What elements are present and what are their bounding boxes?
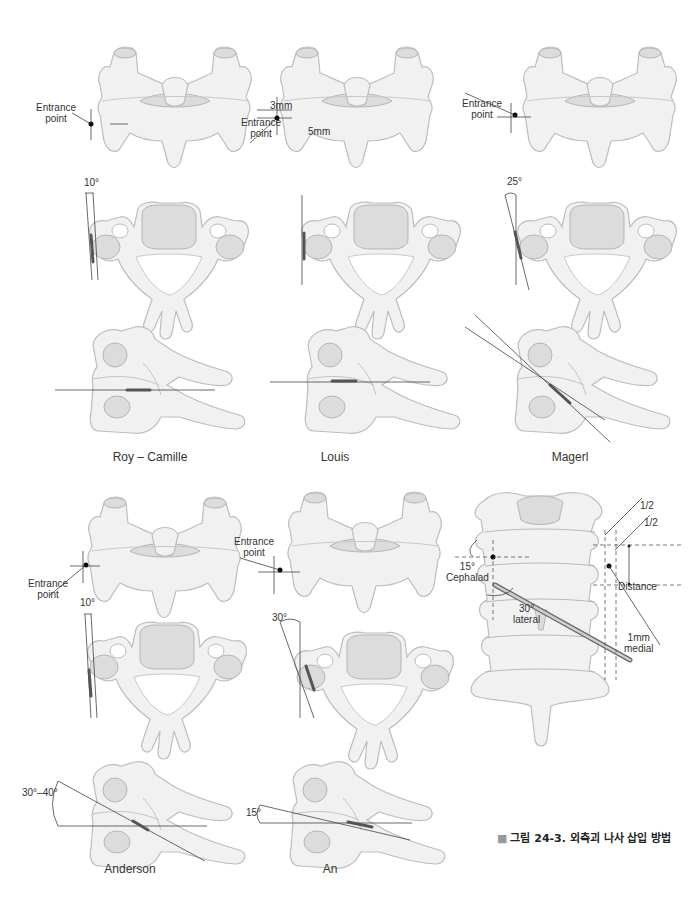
anderson-axial-angle: 10°	[80, 597, 95, 608]
cephalad-angle-label: 15° Cephalad	[446, 561, 489, 583]
medial-offset-label: 1mm medial	[624, 632, 653, 654]
an-lateral-trajectory	[260, 800, 430, 860]
anderson-lateral-angle: 30°–40°	[22, 787, 58, 798]
technique-name-an: An	[300, 862, 360, 876]
an-entrance-label: Entrance point	[234, 536, 274, 558]
an-screw-trajectory	[270, 610, 460, 770]
figure-caption: ■그림 24-3. 외측괴 나사 삽입 방법	[497, 829, 671, 845]
technique-name-louis: Louis	[280, 450, 390, 464]
half-top-label: 1/2	[640, 500, 654, 511]
caption-marker-icon: ■	[497, 832, 507, 845]
magerl-entrance-label: Entrance point	[462, 98, 502, 120]
technique-name-anderson: Anderson	[80, 862, 180, 876]
louis-entrance-label: Entrance point	[241, 117, 281, 139]
roy-camille-entrance-label: Entrance point	[36, 102, 76, 124]
technique-name-roy-camille: Roy – Camille	[70, 450, 230, 464]
louis-offset-horizontal: 5mm	[308, 126, 330, 137]
magerl-entry-marker	[505, 45, 688, 170]
louis-offset-vertical: 3mm	[270, 100, 292, 111]
technique-name-magerl: Magerl	[530, 450, 610, 464]
an-axial-angle: 30°	[272, 612, 287, 623]
louis-lateral-trajectory	[270, 325, 470, 435]
anderson-entrance-label: Entrance point	[28, 578, 68, 600]
anderson-screw-trajectory	[75, 600, 250, 760]
roy-camille-axial-angle: 10°	[84, 177, 99, 188]
roy-camille-screw-trajectory	[80, 180, 255, 340]
lateral-angle-label: 30° lateral	[513, 603, 540, 625]
distance-label: Distance	[618, 581, 657, 592]
magerl-lateral-trajectory	[465, 315, 688, 465]
roy-camille-lateral-trajectory	[55, 325, 255, 435]
caption-text: 그림 24-3. 외측괴 나사 삽입 방법	[510, 832, 671, 845]
an-entry-marker	[270, 490, 460, 615]
roy-camille-entry-marker	[80, 45, 270, 170]
half-bottom-label: 1/2	[644, 517, 658, 528]
an-lateral-angle: 15°	[246, 807, 261, 818]
magerl-axial-angle: 25°	[507, 176, 522, 187]
